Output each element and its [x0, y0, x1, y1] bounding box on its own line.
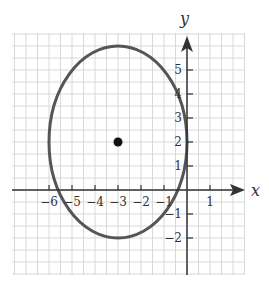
x-tick-label: −2 [132, 195, 150, 209]
x-tick-label: 1 [206, 195, 214, 209]
x-tick-label: −4 [86, 195, 104, 209]
y-tick-label: 3 [174, 111, 182, 125]
x-axis-label: x [251, 181, 260, 200]
ellipse-graph: −6 −5 −4 −3 −2 −1 1 5 4 3 2 1 −1 −2 x y [0, 0, 269, 295]
x-tick-label: −5 [63, 195, 81, 209]
y-tick-label: −2 [164, 231, 182, 245]
y-tick-label: 4 [174, 87, 182, 101]
x-tick-label: −6 [40, 195, 58, 209]
y-tick-label: 5 [174, 63, 182, 77]
y-axis-label: y [179, 9, 190, 28]
y-axis [181, 36, 193, 275]
y-tick-label: −1 [164, 207, 182, 221]
y-tick-label: 1 [174, 159, 182, 173]
grid [12, 33, 245, 275]
y-tick-label: 2 [174, 135, 182, 149]
center-point [114, 138, 123, 147]
x-tick-label: −3 [109, 195, 127, 209]
